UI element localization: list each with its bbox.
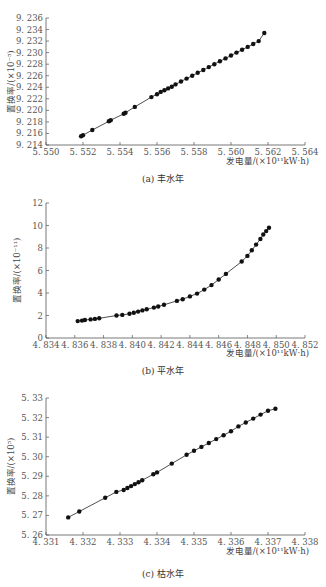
y-tick-label: 5. 27 [21, 510, 43, 520]
data-point [155, 470, 159, 474]
chart-panel-c: 4. 3314. 3324. 3334. 3344. 3354. 3364. 3… [0, 0, 326, 587]
data-point [236, 424, 240, 428]
y-tick-label: 5. 30 [21, 452, 43, 462]
y-tick-label: 5. 28 [21, 491, 43, 501]
data-point [244, 420, 248, 424]
x-tick-label: 4. 335 [180, 537, 207, 547]
y-axis-title: 置换率/(×10⁵) [6, 438, 16, 496]
data-point [199, 445, 203, 449]
y-tick-label: 5. 29 [21, 471, 43, 481]
chart-c-plot: 4. 3314. 3324. 3334. 3344. 3354. 3364. 3… [0, 0, 326, 587]
data-point [229, 429, 233, 433]
data-point [66, 515, 70, 519]
x-axis-title: 发电量/(×10¹¹kW·h) [226, 546, 309, 556]
y-tick-label: 5. 31 [21, 432, 43, 442]
data-point [258, 412, 262, 416]
data-point [184, 453, 188, 457]
y-tick-label: 5. 32 [21, 413, 43, 423]
data-point [140, 478, 144, 482]
x-tick-label: 4. 334 [143, 537, 170, 547]
data-point [114, 490, 118, 494]
data-point [192, 449, 196, 453]
data-point [214, 437, 218, 441]
data-point [136, 480, 140, 484]
data-point [129, 484, 133, 488]
data-point [266, 409, 270, 413]
caption-c: (c) 枯水年 [0, 567, 326, 580]
data-point [77, 509, 81, 513]
x-tick-label: 4. 332 [69, 537, 96, 547]
data-point [103, 496, 107, 500]
y-tick-label: 5. 33 [21, 393, 43, 403]
data-point [251, 416, 255, 420]
data-point [207, 441, 211, 445]
data-point [221, 433, 225, 437]
y-tick-label: 5. 26 [21, 530, 43, 540]
x-tick-label: 4. 333 [106, 537, 133, 547]
data-point [122, 488, 126, 492]
data-point [273, 407, 277, 411]
data-point [170, 461, 174, 465]
